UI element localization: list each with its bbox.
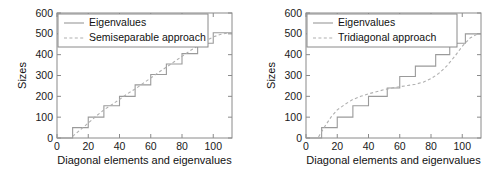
y-tick-label-right-6: 600 <box>284 7 302 19</box>
legend-label-left-0: Eigenvalues <box>89 16 146 28</box>
x-tick-label-right-0: 0 <box>303 140 309 152</box>
chart-svg-right: 0100200300400500600020406080100Diagonal … <box>249 0 498 181</box>
legend-label-left-1: Semiseparable approach <box>89 31 206 43</box>
x-tick-label-left-4: 80 <box>176 140 188 152</box>
plot-area-left: 0100200300400500600020406080100Diagonal … <box>16 7 232 166</box>
x-tick-label-left-3: 60 <box>145 140 157 152</box>
y-tick-label-left-4: 400 <box>35 48 53 60</box>
x-tick-label-right-3: 60 <box>394 140 406 152</box>
y-tick-label-left-6: 600 <box>35 7 53 19</box>
chart-svg-left: 0100200300400500600020406080100Diagonal … <box>0 0 249 181</box>
y-tick-label-right-3: 300 <box>284 69 302 81</box>
y-tick-label-left-5: 500 <box>35 27 53 39</box>
y-tick-label-right-4: 400 <box>284 48 302 60</box>
plot-area-right: 0100200300400500600020406080100Diagonal … <box>265 7 481 166</box>
figure-two-panel-eigenvalue-plots: 0100200300400500600020406080100Diagonal … <box>0 0 498 181</box>
y-tick-label-right-5: 500 <box>284 27 302 39</box>
chart-panel-semiseparable: 0100200300400500600020406080100Diagonal … <box>0 0 249 181</box>
x-tick-label-left-0: 0 <box>54 140 60 152</box>
x-tick-label-right-4: 80 <box>425 140 437 152</box>
y-tick-label-left-0: 0 <box>47 132 53 144</box>
y-tick-label-left-2: 200 <box>35 90 53 102</box>
legend-label-right-0: Eigenvalues <box>338 16 395 28</box>
x-tick-label-right-2: 40 <box>363 140 375 152</box>
y-tick-label-right-1: 100 <box>284 111 302 123</box>
x-tick-label-left-5: 100 <box>204 140 222 152</box>
series-right-0 <box>306 34 481 138</box>
y-tick-label-right-0: 0 <box>296 132 302 144</box>
x-tick-label-right-5: 100 <box>453 140 471 152</box>
y-tick-label-right-2: 200 <box>284 90 302 102</box>
x-tick-label-right-1: 20 <box>331 140 343 152</box>
x-tick-label-left-2: 40 <box>114 140 126 152</box>
legend-label-right-1: Tridiagonal approach <box>338 31 436 43</box>
series-right-1 <box>319 34 478 137</box>
y-axis-title-left: Sizes <box>16 62 28 89</box>
y-axis-title-right: Sizes <box>265 62 277 89</box>
x-axis-title-right: Diagonal elements and eigenvalues <box>306 154 481 166</box>
y-tick-label-left-1: 100 <box>35 111 53 123</box>
x-axis-title-left: Diagonal elements and eigenvalues <box>57 154 232 166</box>
x-tick-label-left-1: 20 <box>82 140 94 152</box>
series-left-0 <box>57 33 232 138</box>
y-tick-label-left-3: 300 <box>35 69 53 81</box>
chart-panel-tridiagonal: 0100200300400500600020406080100Diagonal … <box>249 0 498 181</box>
